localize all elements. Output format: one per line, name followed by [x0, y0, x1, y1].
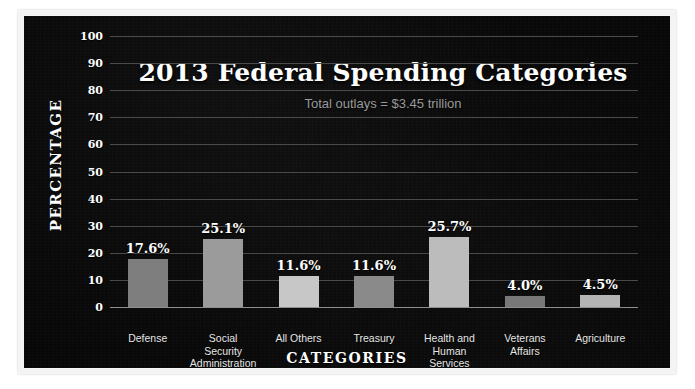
y-tick-label: 70 [88, 111, 103, 124]
category-label: Treasury [336, 332, 411, 345]
y-axis-title: PERCENTAGE [47, 85, 65, 245]
category-label: Social Security Administration [185, 332, 260, 368]
category-label: Defense [110, 332, 185, 345]
bar-value-label: 11.6% [265, 258, 333, 273]
bar-group[interactable]: 17.6% [128, 36, 168, 307]
y-tick-label: 10 [88, 273, 103, 286]
y-tick-label: 60 [88, 138, 103, 151]
bar-value-label: 11.6% [340, 258, 408, 273]
bar-value-label: 17.6% [114, 241, 182, 256]
y-tick-label: 90 [88, 57, 103, 70]
bar-group[interactable]: 4.0% [505, 36, 545, 307]
bar-value-label: 4.5% [566, 277, 634, 292]
y-tick-label: 40 [88, 192, 103, 205]
category-label: Health and Human Services [412, 332, 487, 368]
bar-group[interactable]: 4.5% [580, 36, 620, 307]
chart-screenshot: 2013 Federal Spending Categories Total o… [0, 0, 695, 389]
y-tick-label: 100 [80, 30, 103, 43]
category-label: Veterans Affairs [487, 332, 562, 357]
bar-value-label: 25.7% [415, 219, 483, 234]
category-label: All Others [261, 332, 336, 345]
bar[interactable] [354, 276, 394, 307]
bars-layer: 17.6%25.1%11.6%11.6%25.7%4.0%4.5% [110, 36, 638, 307]
axis-baseline: 0 [110, 307, 638, 308]
bar[interactable] [580, 295, 620, 307]
y-tick-label: 20 [88, 246, 103, 259]
y-tick-label: 50 [88, 165, 103, 178]
bar-group[interactable]: 25.1% [203, 36, 243, 307]
bar-value-label: 4.0% [491, 278, 559, 293]
bar[interactable] [128, 259, 168, 307]
bar[interactable] [505, 296, 545, 307]
bar-chart: 2013 Federal Spending Categories Total o… [24, 16, 670, 368]
x-axis-title: CATEGORIES [24, 350, 670, 366]
y-tick-label: 30 [88, 219, 103, 232]
plot-area: 1009080706050403020100 17.6%25.1%11.6%11… [110, 36, 638, 307]
y-tick-label: 0 [95, 301, 103, 314]
y-tick-label: 80 [88, 84, 103, 97]
category-label: Agriculture [563, 332, 638, 345]
bar-group[interactable]: 11.6% [354, 36, 394, 307]
bar[interactable] [429, 237, 469, 307]
bar-value-label: 25.1% [189, 221, 257, 236]
bar[interactable] [203, 239, 243, 307]
bar-group[interactable]: 25.7% [429, 36, 469, 307]
bar[interactable] [279, 276, 319, 307]
bar-group[interactable]: 11.6% [279, 36, 319, 307]
